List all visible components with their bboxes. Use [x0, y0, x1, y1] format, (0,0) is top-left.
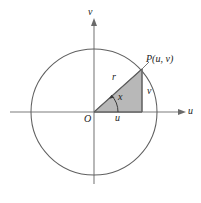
- horizontal-leg-label: u: [115, 113, 120, 123]
- v-axis-arrowhead-icon: [91, 18, 97, 26]
- angle-label: x: [118, 92, 122, 102]
- u-axis-arrowhead-icon: [178, 109, 186, 115]
- u-axis-label: u: [188, 106, 193, 116]
- point-p-label: P(u, v): [146, 54, 173, 64]
- geometry-figure: v u O P(u, v) r x v u: [0, 0, 201, 203]
- figure-canvas: [0, 0, 201, 203]
- v-axis-label: v: [88, 7, 92, 17]
- radius-label: r: [112, 72, 116, 82]
- vertical-leg-label: v: [147, 86, 151, 96]
- v-axis: [91, 18, 97, 184]
- origin-label: O: [84, 114, 91, 124]
